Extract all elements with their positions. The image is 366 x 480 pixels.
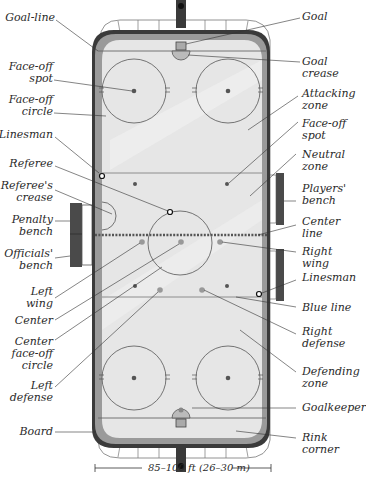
- label-left-wing: Left wing: [26, 286, 53, 310]
- label-players-bench: Players' bench: [302, 183, 346, 207]
- label-referees-crease: Referee's crease: [1, 180, 53, 204]
- players-bench-bottom: [276, 249, 284, 301]
- penalty-bench-shape: [70, 203, 82, 267]
- label-face-off-spot-left: Face-off spot: [9, 61, 53, 85]
- label-goal: Goal: [302, 11, 328, 23]
- label-center: Center: [15, 315, 53, 327]
- label-board: Board: [19, 426, 53, 438]
- label-goal-line: Goal-line: [5, 12, 55, 24]
- label-goal-crease: Goal crease: [302, 56, 339, 80]
- label-defending-zone: Defending zone: [302, 366, 360, 390]
- label-rink-corner: Rink corner: [302, 432, 361, 456]
- goal-top: [176, 42, 186, 50]
- label-right-defense: Right defense: [302, 326, 345, 350]
- players-bench-top: [276, 173, 284, 225]
- goal-bottom: [176, 419, 186, 427]
- label-linesman-left: Linesman: [0, 129, 53, 141]
- ice-surface: [102, 40, 262, 438]
- label-face-off-circle: Face-off circle: [9, 94, 53, 118]
- label-linesman-right: Linesman: [302, 272, 356, 284]
- scale-label: 85–100 ft (26–30 m): [148, 462, 250, 473]
- label-center-face-off-circle: Center face-off circle: [12, 336, 53, 372]
- label-attacking-zone: Attacking zone: [302, 88, 356, 112]
- label-blue-line: Blue line: [302, 302, 351, 314]
- label-face-off-spot-right: Face-off spot: [302, 118, 346, 142]
- label-penalty-bench: Penalty bench: [12, 214, 53, 238]
- label-goalkeeper: Goalkeeper: [302, 402, 366, 414]
- label-neutral-zone: Neutral zone: [302, 149, 345, 173]
- label-left-defense: Left defense: [10, 380, 53, 404]
- label-center-line: Center line: [302, 216, 361, 240]
- label-officials-bench: Officials' bench: [4, 248, 53, 272]
- label-referee: Referee: [9, 158, 53, 170]
- label-right-wing: Right wing: [302, 246, 361, 270]
